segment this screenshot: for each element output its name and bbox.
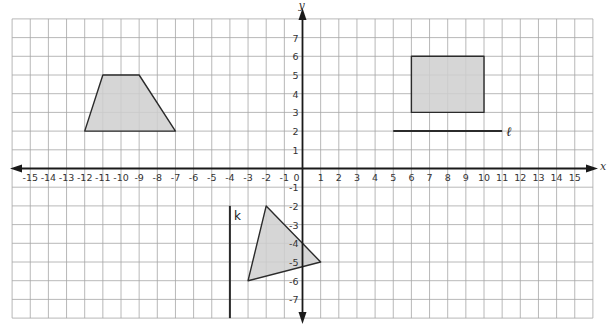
x-tick-label: -14 bbox=[41, 172, 57, 183]
rectangle bbox=[411, 56, 484, 112]
coordinate-plane: xy -15-14-13-12-11-10-9-8-7-6-5-4-3-2-11… bbox=[0, 0, 610, 327]
x-axis-right-arrow-icon bbox=[586, 165, 598, 173]
origin-label: 0 bbox=[293, 172, 299, 183]
x-tick-label: 4 bbox=[372, 172, 378, 183]
y-tick-label: 4 bbox=[292, 89, 298, 100]
x-tick-label: -10 bbox=[113, 172, 129, 183]
x-tick-label: -5 bbox=[207, 172, 216, 183]
x-tick-label: -15 bbox=[22, 172, 38, 183]
y-tick-label: 3 bbox=[292, 107, 298, 118]
y-tick-label: -6 bbox=[289, 276, 298, 287]
coordinate-plane-diagram: xy -15-14-13-12-11-10-9-8-7-6-5-4-3-2-11… bbox=[0, 0, 610, 327]
y-tick-label: -4 bbox=[289, 238, 298, 249]
x-tick-label: 6 bbox=[408, 172, 414, 183]
x-tick-label: 8 bbox=[445, 172, 451, 183]
line-k-label: k bbox=[234, 209, 241, 223]
x-tick-label: 1 bbox=[318, 172, 324, 183]
x-tick-label: 3 bbox=[354, 172, 360, 183]
y-tick-label: 6 bbox=[292, 51, 298, 62]
y-tick-label: 2 bbox=[292, 126, 298, 137]
x-tick-label: 12 bbox=[514, 172, 526, 183]
y-tick-label: 5 bbox=[292, 70, 298, 81]
x-tick-label: -11 bbox=[95, 172, 111, 183]
x-tick-label: 13 bbox=[532, 172, 544, 183]
x-tick-label: -7 bbox=[171, 172, 180, 183]
x-tick-label: 2 bbox=[336, 172, 342, 183]
y-tick-label: -1 bbox=[289, 182, 298, 193]
x-tick-label: 7 bbox=[427, 172, 433, 183]
y-tick-label: 1 bbox=[292, 145, 298, 156]
y-tick-label: -3 bbox=[289, 220, 298, 231]
x-tick-label: 15 bbox=[569, 172, 581, 183]
line-l-label: ℓ bbox=[506, 124, 512, 139]
y-axis-label: y bbox=[298, 0, 306, 12]
x-tick-label: -8 bbox=[153, 172, 162, 183]
trapezoid bbox=[85, 75, 176, 131]
y-tick-label: 7 bbox=[292, 33, 298, 44]
x-tick-label: -13 bbox=[59, 172, 75, 183]
y-tick-label: -7 bbox=[289, 294, 298, 305]
y-tick-label: -2 bbox=[289, 201, 298, 212]
x-tick-label: -3 bbox=[243, 172, 252, 183]
x-tick-label: 11 bbox=[496, 172, 508, 183]
x-axis-label: x bbox=[600, 160, 607, 173]
y-tick-label: -5 bbox=[289, 257, 298, 268]
x-tick-label: -2 bbox=[261, 172, 270, 183]
x-tick-label: 14 bbox=[551, 172, 563, 183]
x-tick-label: -6 bbox=[189, 172, 198, 183]
x-tick-label: -12 bbox=[77, 172, 93, 183]
x-tick-label: -4 bbox=[225, 172, 234, 183]
axes: xy bbox=[10, 0, 607, 324]
x-tick-label: -1 bbox=[280, 172, 289, 183]
x-tick-label: 5 bbox=[390, 172, 396, 183]
x-tick-label: 9 bbox=[463, 172, 469, 183]
x-tick-label: -9 bbox=[134, 172, 143, 183]
x-tick-label: 10 bbox=[478, 172, 490, 183]
